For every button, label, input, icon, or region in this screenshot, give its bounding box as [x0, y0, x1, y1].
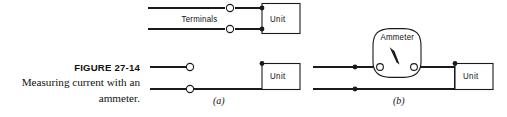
top-upper-junction-dot-icon [260, 6, 265, 11]
top-lower-open-terminal-icon [226, 25, 233, 32]
b-unit-label: Unit [463, 71, 479, 81]
b-upper-junction-dot-icon [353, 65, 358, 70]
a-upper-open-terminal-icon [186, 63, 193, 70]
ammeter-right-terminal-icon [411, 64, 418, 71]
terminals-label: Terminals [182, 14, 218, 24]
figure-27-14: FIGURE 27-14 Measuring current with an a… [0, 0, 507, 117]
a-lower-open-terminal-icon [186, 85, 193, 92]
ammeter-label: Ammeter [380, 32, 414, 42]
b-lower-junction-dot-icon [353, 87, 358, 92]
top-lower-junction-dot-icon [260, 27, 265, 32]
top-unit-label: Unit [270, 14, 286, 24]
a-unit-label: Unit [270, 71, 286, 81]
circuit-line-art [0, 0, 507, 117]
sublabel-b: (b) [393, 95, 405, 106]
b-unit-junction-dot-icon [453, 61, 458, 66]
top-upper-open-terminal-icon [226, 4, 233, 11]
sublabel-a: (a) [213, 95, 225, 106]
a-upper-junction-dot-icon [260, 61, 265, 66]
ammeter-left-terminal-icon [377, 64, 384, 71]
